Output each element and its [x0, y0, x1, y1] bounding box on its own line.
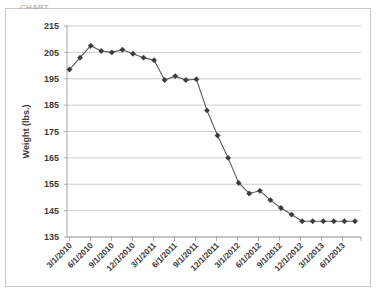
series-marker — [99, 48, 104, 53]
series-marker — [331, 218, 336, 223]
series-line-weight — [70, 46, 355, 221]
y-axis-title: Weight (lbs.) — [21, 105, 31, 159]
series-marker — [183, 77, 188, 82]
series-marker — [215, 133, 220, 138]
series-marker — [162, 77, 167, 82]
y-tick-label: 185 — [44, 100, 59, 110]
series-marker — [151, 58, 156, 63]
y-tick-label: 205 — [44, 48, 59, 58]
y-tick-label: 175 — [44, 127, 59, 137]
series-marker — [141, 55, 146, 60]
y-tick-label: 165 — [44, 153, 59, 163]
y-tick-label: 155 — [44, 179, 59, 189]
series-marker — [173, 73, 178, 78]
y-tick-label: 215 — [44, 21, 59, 31]
chart-panel: CHART 215205195185175165155145135Weight … — [5, 8, 371, 287]
series-marker — [352, 218, 357, 223]
y-tick-label: 145 — [44, 206, 59, 216]
series-marker — [289, 212, 294, 217]
series-marker — [299, 218, 304, 223]
series-marker — [109, 50, 114, 55]
series-marker — [321, 218, 326, 223]
weight-line-chart: 215205195185175165155145135Weight (lbs.)… — [6, 9, 372, 288]
series-marker — [204, 108, 209, 113]
plot-area-wrapper: 215205195185175165155145135Weight (lbs.)… — [6, 9, 372, 288]
series-marker — [225, 155, 230, 160]
series-marker — [342, 218, 347, 223]
series-marker — [120, 47, 125, 52]
series-marker — [130, 51, 135, 56]
series-marker — [310, 218, 315, 223]
series-marker — [194, 77, 199, 82]
y-tick-label: 195 — [44, 74, 59, 84]
y-tick-label: 135 — [44, 232, 59, 242]
